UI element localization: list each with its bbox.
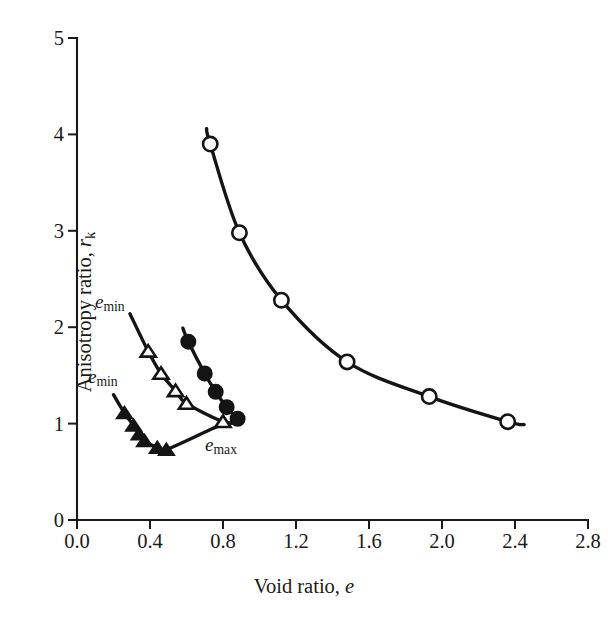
datapoint-filled-circle-series-3: [220, 400, 234, 414]
datapoint-open-triangle-series-0: [141, 345, 156, 357]
x-tick-label-6: 2.4: [502, 530, 528, 553]
annotation-emin-lower: emin: [88, 366, 118, 390]
y-tick-label-4: 4: [44, 123, 64, 146]
datapoint-open-circle-series-0: [203, 137, 217, 151]
datapoint-open-circle-series-4: [422, 389, 436, 403]
datapoint-open-triangle-series-1: [153, 367, 168, 379]
x-tick-label-0: 0.0: [64, 530, 90, 553]
datapoint-filled-triangle-series-0: [117, 407, 132, 419]
figure-container: 0.0 0.4 0.8 1.2 1.6 2.0 2.4 2.8 0 1 2 3 …: [0, 0, 608, 623]
annotation-subscript: min: [103, 299, 124, 314]
y-tick-label-0: 0: [44, 509, 64, 532]
y-tick-label-1: 1: [44, 413, 64, 436]
datapoint-open-circle-series-3: [340, 355, 354, 369]
annotation-emin-upper: emin: [95, 291, 125, 315]
datapoint-filled-circle-series-2: [209, 385, 223, 399]
y-tick-label-5: 5: [44, 27, 64, 50]
datapoint-filled-circle-series-0: [181, 335, 195, 349]
datapoint-open-circle-series-5: [501, 414, 515, 428]
datapoint-open-triangle-series-4: [215, 415, 230, 427]
annotation-subscript: min: [96, 374, 117, 389]
annotation-subscript: max: [213, 442, 237, 457]
x-tick-label-5: 2.0: [429, 530, 455, 553]
curve-open-circle-series: [207, 129, 525, 425]
datapoint-filled-circle-series-4: [231, 412, 245, 426]
y-tick-label-3: 3: [44, 220, 64, 243]
y-axis-title-symbol: r: [73, 239, 95, 247]
x-tick-label-1: 0.4: [137, 530, 163, 553]
y-tick-label-2: 2: [44, 316, 64, 339]
x-tick-label-3: 1.2: [283, 530, 309, 553]
y-axis-title-subscript: k: [82, 231, 98, 238]
x-axis-title: Void ratio, e: [254, 575, 354, 598]
datapoint-filled-circle-series-1: [198, 366, 212, 380]
x-tick-label-2: 0.8: [210, 530, 236, 553]
annotation-emax: emax: [205, 434, 237, 458]
x-tick-label-4: 1.6: [356, 530, 382, 553]
x-axis-title-text: Void ratio,: [254, 575, 345, 597]
x-tick-label-7: 2.8: [575, 530, 601, 553]
datapoint-open-circle-series-2: [274, 293, 288, 307]
datapoint-open-circle-series-1: [232, 226, 246, 240]
x-axis-title-symbol: e: [345, 575, 354, 597]
